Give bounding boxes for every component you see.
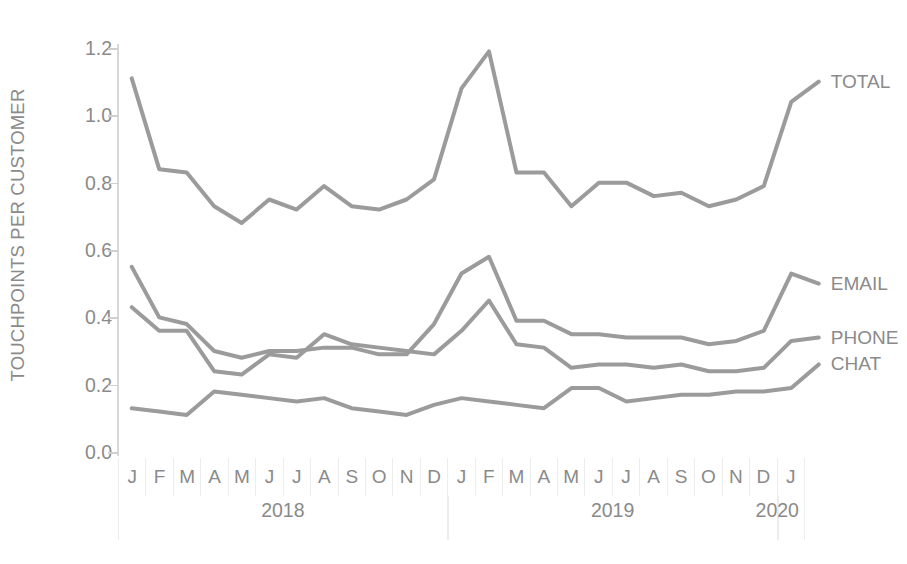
y-tick-label: 0.4 xyxy=(52,306,112,329)
x-axis-month-cell: N xyxy=(392,458,419,496)
x-axis-month-cell: N xyxy=(722,458,749,496)
y-tick-mark xyxy=(108,317,118,319)
x-axis-month-cell: M xyxy=(557,458,584,496)
y-tick-mark xyxy=(108,452,118,454)
series-label-email: EMAIL xyxy=(831,273,888,295)
plot-area xyxy=(118,48,805,452)
chart-figure: TOUCHPOINTS PER CUSTOMER 0.00.20.40.60.8… xyxy=(0,0,907,564)
x-axis-month-cell: J xyxy=(447,458,474,496)
y-axis-title-text: TOUCHPOINTS PER CUSTOMER xyxy=(7,89,29,382)
y-axis-title: TOUCHPOINTS PER CUSTOMER xyxy=(0,0,36,470)
y-tick-label: 0.0 xyxy=(52,441,112,464)
y-tick-mark xyxy=(108,48,118,50)
x-axis-month-cell: J xyxy=(283,458,310,496)
x-axis-month-cell: D xyxy=(749,458,776,496)
x-axis-month-cell: A xyxy=(310,458,337,496)
x-axis-year-cell: 2020 xyxy=(778,496,805,540)
x-axis-year-cell: 2018 xyxy=(118,496,448,540)
x-axis-month-cell: J xyxy=(777,458,805,496)
x-axis-month-cell: M xyxy=(502,458,529,496)
x-axis-month-cell: F xyxy=(475,458,502,496)
x-axis-month-cell: J xyxy=(255,458,282,496)
x-axis-month-cell: M xyxy=(228,458,255,496)
x-axis-year-cell: 2019 xyxy=(448,496,778,540)
y-tick-mark xyxy=(108,250,118,252)
y-tick-mark xyxy=(108,115,118,117)
series-label-chat: CHAT xyxy=(831,353,881,375)
series-lines xyxy=(118,48,805,452)
x-axis-month-cell: J xyxy=(612,458,639,496)
y-tick-label: 0.8 xyxy=(52,171,112,194)
y-tick-label: 1.0 xyxy=(52,104,112,127)
x-axis-month-cell: O xyxy=(694,458,721,496)
series-line-phone xyxy=(132,301,819,375)
x-axis-month-cells: JFMAMJJASONDJFMAMJJASONDJ xyxy=(118,458,805,496)
x-axis-month-cell: A xyxy=(639,458,666,496)
series-line-total xyxy=(132,51,819,223)
y-tick-mark xyxy=(108,385,118,387)
x-axis-year-cells: 201820192020 xyxy=(118,496,805,540)
series-label-total: TOTAL xyxy=(831,71,890,93)
x-axis-month-cell: O xyxy=(365,458,392,496)
x-axis-month-cell: J xyxy=(584,458,611,496)
x-axis-year-label: 2018 xyxy=(261,499,304,522)
x-axis-month-cell: F xyxy=(145,458,172,496)
x-axis-year-label: 2020 xyxy=(756,499,799,522)
x-axis-month-cell: J xyxy=(118,458,145,496)
y-tick-label: 0.2 xyxy=(52,373,112,396)
x-axis-month-cell: S xyxy=(338,458,365,496)
y-axis-tick-labels: 0.00.20.40.60.81.01.2 xyxy=(50,0,112,564)
x-axis-month-cell: D xyxy=(420,458,447,496)
x-axis-year-label: 2019 xyxy=(591,499,634,522)
x-axis-month-cell: A xyxy=(530,458,557,496)
series-label-phone: PHONE xyxy=(831,327,899,349)
y-tick-label: 1.2 xyxy=(52,37,112,60)
x-axis-month-cell: A xyxy=(200,458,227,496)
series-line-email xyxy=(132,257,819,358)
x-axis-month-cell: S xyxy=(667,458,694,496)
x-axis-month-cell: M xyxy=(173,458,200,496)
y-tick-label: 0.6 xyxy=(52,239,112,262)
y-tick-mark xyxy=(108,183,118,185)
